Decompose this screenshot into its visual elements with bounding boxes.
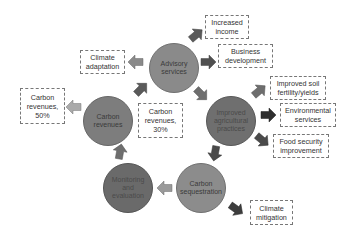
node-carbon-revenues: Carbon revenues (83, 96, 133, 146)
arrow-sequestration-to-monitoring-icon (157, 181, 172, 195)
box-label: Carbon revenues, 50% (24, 93, 62, 120)
node-label: Monitoring and evaluation (109, 176, 147, 200)
box-label: Improved soil fertility/yields (273, 79, 323, 97)
arrow-to-carbon-revenues-50-icon (66, 100, 81, 114)
box-environmental-services: Environmental services (280, 103, 336, 127)
arrow-to-increased-income-icon (186, 24, 206, 44)
box-carbon-revenues-50: Carbon revenues, 50% (20, 88, 65, 124)
node-monitoring-and-evaluation: Monitoring and evaluation (103, 163, 153, 213)
arrow-to-climate-adaptation-icon (128, 55, 143, 69)
arrow-advisory-to-practices-icon (191, 84, 212, 105)
box-climate-adaptation: Climate adaptation (80, 50, 125, 74)
box-improved-soil-fertility: Improved soil fertility/yields (270, 76, 326, 100)
node-label: Carbon revenues (91, 113, 125, 129)
arrow-to-environmental-services-icon (261, 108, 276, 122)
box-label: Business development (222, 47, 270, 65)
arrow-to-food-security-icon (252, 130, 272, 150)
arrow-monitoring-to-revenues-icon (112, 143, 128, 160)
arrow-to-climate-mitigation-icon (226, 199, 246, 219)
box-food-security-improvement: Food security improvement (273, 134, 329, 158)
box-increased-income: Increased income (205, 15, 249, 39)
box-label: Environmental services (283, 106, 333, 124)
box-business-development: Business development (218, 44, 273, 68)
node-advisory-services: Advisory services (149, 43, 199, 93)
node-carbon-sequestration: Carbon sequestration (176, 163, 226, 213)
box-label: Carbon revenues, 30% (142, 107, 180, 134)
box-label: Climate mitigation (253, 204, 290, 222)
arrow-to-business-development-icon (201, 55, 216, 69)
box-label: Food security improvement (276, 137, 326, 155)
node-label: Carbon sequestration (178, 180, 224, 196)
box-carbon-revenues-30: Carbon revenues, 30% (138, 103, 183, 138)
node-improved-agricultural-practices: Improved agricultural practices (206, 96, 256, 146)
arrow-revenues-to-advisory-icon (131, 78, 152, 99)
box-climate-mitigation: Climate mitigation (250, 200, 293, 225)
box-label: Climate adaptation (83, 53, 122, 71)
arrow-to-soil-fertility-icon (249, 80, 269, 100)
box-label: Increased income (209, 18, 245, 36)
node-label: Improved agricultural practices (211, 109, 251, 133)
node-label: Advisory services (156, 60, 192, 76)
arrow-practices-to-sequestration-icon (207, 145, 223, 162)
